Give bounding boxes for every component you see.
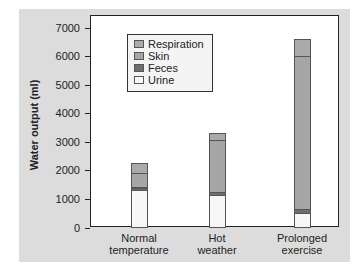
- legend-item-urine: Urine: [134, 74, 206, 86]
- y-tick: [85, 199, 90, 200]
- skin-segment: [294, 56, 311, 210]
- legend-label: Urine: [148, 74, 174, 86]
- stacked-bar: [294, 0, 311, 269]
- legend-item-skin: Skin: [134, 50, 206, 62]
- legend-label: Feces: [148, 62, 178, 74]
- y-tick: [85, 228, 90, 229]
- y-tick-label: 7000: [56, 22, 80, 34]
- x-category-label: Prolonged exercise: [277, 232, 327, 256]
- skin-swatch: [134, 52, 144, 60]
- urine-segment: [131, 190, 148, 228]
- urine-swatch: [134, 76, 144, 84]
- legend: Respiration Skin Feces Urine: [127, 34, 213, 92]
- y-axis-label: Water output (ml): [28, 80, 40, 171]
- legend-label: Skin: [148, 50, 169, 62]
- legend-item-feces: Feces: [134, 62, 206, 74]
- y-tick-label: 5000: [56, 79, 80, 91]
- feces-swatch: [134, 64, 144, 72]
- y-tick-label: 3000: [56, 136, 80, 148]
- skin-segment: [131, 173, 148, 188]
- y-tick-label: 2000: [56, 164, 80, 176]
- urine-segment: [294, 213, 311, 228]
- legend-item-respiration: Respiration: [134, 38, 206, 50]
- y-tick: [85, 28, 90, 29]
- y-tick: [85, 142, 90, 143]
- y-tick-label: 0: [74, 222, 80, 234]
- respiration-segment: [209, 133, 226, 141]
- x-category-label: Hot weather: [197, 232, 236, 256]
- y-tick: [85, 56, 90, 57]
- respiration-segment: [294, 39, 311, 57]
- respiration-segment: [131, 163, 148, 174]
- y-tick: [85, 85, 90, 86]
- y-tick-label: 6000: [56, 50, 80, 62]
- legend-label: Respiration: [148, 38, 204, 50]
- urine-segment: [209, 195, 226, 229]
- skin-segment: [209, 140, 226, 192]
- y-tick: [85, 113, 90, 114]
- x-category-label: Normal temperature: [109, 232, 168, 256]
- y-tick-label: 1000: [56, 193, 80, 205]
- respiration-swatch: [134, 40, 144, 48]
- y-tick-label: 4000: [56, 107, 80, 119]
- y-tick: [85, 170, 90, 171]
